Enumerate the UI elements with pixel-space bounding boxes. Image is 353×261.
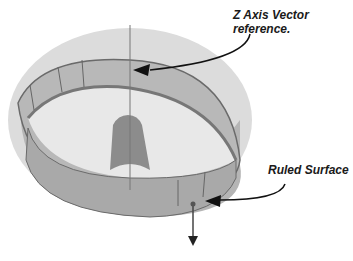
vector-arrowhead	[188, 236, 198, 246]
callout-z-axis: Z Axis Vector reference.	[233, 8, 309, 36]
callout-ruled-surface: Ruled Surface	[268, 163, 349, 177]
bowl-diagram	[0, 0, 353, 261]
